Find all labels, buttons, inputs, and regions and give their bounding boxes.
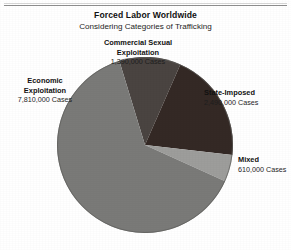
- label-cse-line1: Commercial Sexual: [83, 38, 193, 48]
- label-mixed: Mixed 610,000 Cases: [238, 155, 290, 174]
- label-commercial-sexual-exploitation: Commercial Sexual Exploitation 1,390,000…: [83, 38, 193, 67]
- label-econ-line2: Exploitation: [2, 86, 88, 96]
- figure-title-block: Forced Labor Worldwide Considering Categ…: [0, 10, 291, 32]
- label-econ-value: 7,810,000 Cases: [2, 95, 88, 105]
- header-rule: [4, 5, 287, 6]
- label-mixed-line1: Mixed: [238, 155, 290, 165]
- label-economic-exploitation: Economic Exploitation 7,810,000 Cases: [2, 76, 88, 105]
- label-state-imposed: State-Imposed 2,490,000 Cases: [204, 88, 290, 107]
- chart-title: Forced Labor Worldwide: [0, 10, 291, 21]
- label-state-value: 2,490,000 Cases: [204, 98, 290, 108]
- chart-subtitle: Considering Categories of Trafficking: [0, 21, 291, 32]
- label-cse-line2: Exploitation: [83, 48, 193, 58]
- label-cse-value: 1,390,000 Cases: [83, 57, 193, 67]
- forced-labor-pie-figure: Forced Labor Worldwide Considering Categ…: [0, 0, 291, 250]
- label-econ-line1: Economic: [2, 76, 88, 86]
- header-rule-faint: [4, 3, 287, 4]
- label-mixed-value: 610,000 Cases: [238, 165, 290, 175]
- label-state-line1: State-Imposed: [204, 88, 290, 98]
